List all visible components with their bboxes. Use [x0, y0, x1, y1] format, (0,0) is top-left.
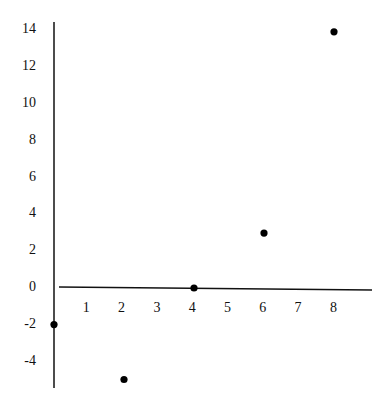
scatter-chart: 14121086420-2-4 12345678	[0, 0, 392, 415]
x-tick-labels: 12345678	[83, 300, 337, 315]
data-point-marker	[50, 321, 57, 328]
x-tick-label: 1	[83, 300, 90, 315]
x-axis	[59, 287, 372, 290]
y-tick-label: -4	[24, 353, 36, 368]
y-tick-labels: 14121086420-2-4	[22, 21, 36, 367]
data-point-marker	[190, 284, 197, 291]
x-tick-label: 3	[153, 300, 160, 315]
y-tick-label: 0	[29, 279, 36, 294]
y-tick-label: 6	[29, 169, 36, 184]
data-point-marker	[120, 376, 127, 383]
y-tick-label: 4	[29, 205, 36, 220]
x-tick-label: 7	[295, 300, 302, 315]
x-tick-label: 5	[224, 300, 231, 315]
x-tick-label: 2	[118, 300, 125, 315]
data-point-marker	[260, 230, 267, 237]
y-tick-label: 14	[22, 21, 36, 36]
x-tick-label: 6	[259, 300, 266, 315]
y-tick-label: 2	[29, 242, 36, 257]
data-point-marker	[330, 28, 337, 35]
x-tick-label: 4	[189, 300, 196, 315]
y-tick-label: 12	[22, 58, 36, 73]
data-points	[50, 28, 337, 383]
y-tick-label: -2	[24, 316, 36, 331]
y-tick-label: 10	[22, 95, 36, 110]
x-tick-label: 8	[330, 300, 337, 315]
y-tick-label: 8	[29, 132, 36, 147]
